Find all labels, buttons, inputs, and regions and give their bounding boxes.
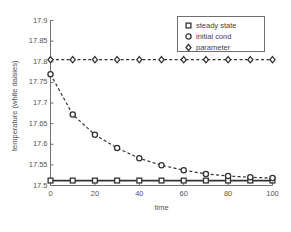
circle-marker-icon [92, 132, 97, 137]
square-marker-icon [181, 178, 186, 183]
diamond-marker-icon [92, 57, 97, 63]
diamond-marker-icon [186, 44, 191, 50]
circle-marker-icon [203, 171, 208, 176]
series-parameter [48, 57, 275, 63]
diamond-marker-icon [181, 57, 186, 63]
x-tick-label: 60 [169, 190, 199, 198]
square-marker-icon [180, 20, 196, 31]
y-tick-label: 17.75 [29, 78, 48, 86]
x-axis-title: time [122, 204, 202, 212]
circle-marker-icon [180, 31, 196, 42]
y-tick-label: 17.5 [33, 182, 48, 190]
diamond-marker-icon [180, 42, 196, 53]
circle-marker-icon [48, 72, 53, 77]
x-tick-label: 100 [258, 190, 288, 198]
series-initial-cond [48, 72, 275, 181]
diamond-marker-icon [159, 57, 164, 63]
diamond-marker-icon [248, 57, 253, 63]
circle-marker-icon [226, 173, 231, 178]
data-series-layer [48, 57, 275, 183]
square-marker-icon [115, 178, 120, 183]
circle-marker-icon [181, 168, 186, 173]
chart-figure: 17.517.5517.617.6517.717.7517.817.8517.9… [0, 0, 291, 232]
diamond-marker-icon [137, 57, 142, 63]
y-tick-label: 17.7 [33, 99, 48, 107]
legend-item-label: initial cond [196, 33, 231, 41]
square-marker-icon [48, 178, 53, 183]
circle-marker-icon [115, 145, 120, 150]
circle-marker-icon [159, 163, 164, 168]
legend-item-initial-cond[interactable]: initial cond [180, 31, 231, 42]
chart-legend: steady stateinitial condparameter [177, 16, 265, 52]
circle-marker-icon [270, 175, 275, 180]
square-marker-icon [159, 178, 164, 183]
legend-item-steady-state[interactable]: steady state [180, 20, 236, 31]
circle-marker-icon [185, 34, 190, 39]
x-tick-label: 80 [213, 190, 243, 198]
y-tick-label: 17.85 [29, 37, 48, 45]
y-tick-label: 17.8 [33, 58, 48, 66]
square-marker-icon [70, 178, 75, 183]
y-tick-label: 17.65 [29, 120, 48, 128]
circle-marker-icon [137, 156, 142, 161]
square-marker-icon [186, 23, 191, 28]
y-tick-label: 17.6 [33, 140, 48, 148]
legend-item-parameter[interactable]: parameter [180, 42, 230, 53]
y-axis-title: temperature (white daisies) [11, 61, 19, 151]
circle-marker-icon [248, 175, 253, 180]
diamond-marker-icon [226, 57, 231, 63]
legend-item-label: parameter [196, 44, 230, 52]
x-tick-label: 0 [36, 190, 66, 198]
diamond-marker-icon [70, 57, 75, 63]
legend-item-label: steady state [196, 22, 236, 30]
circle-marker-icon [70, 112, 75, 117]
diamond-marker-icon [203, 57, 208, 63]
square-marker-icon [93, 178, 98, 183]
diamond-marker-icon [115, 57, 120, 63]
square-marker-icon [204, 178, 209, 183]
series-steady-state [48, 178, 275, 183]
square-marker-icon [137, 178, 142, 183]
y-tick-label: 17.55 [29, 161, 48, 169]
y-tick-label: 17.9 [33, 17, 48, 25]
x-tick-label: 40 [124, 190, 154, 198]
x-tick-label: 20 [80, 190, 110, 198]
diamond-marker-icon [270, 57, 275, 63]
